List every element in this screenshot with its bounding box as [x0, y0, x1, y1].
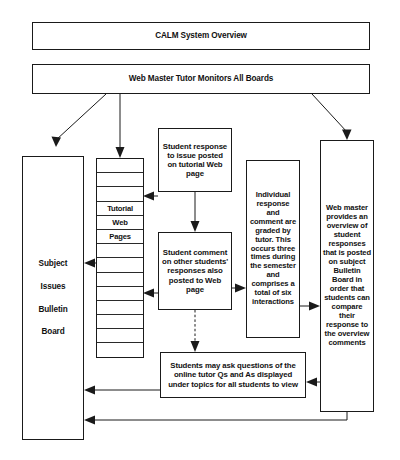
graded-by-tutor-node: Individual response and comment are grad…: [246, 160, 300, 338]
student-comment-label: Student comment on other students' respo…: [162, 248, 228, 294]
subject-board-line-2: Issues: [41, 282, 66, 292]
stack-label-pages: Pages: [97, 230, 143, 244]
graded-by-tutor-label: Individual response and comment are grad…: [249, 191, 297, 307]
calm-system-overview-label: CALM System Overview: [155, 31, 247, 41]
connector-response-to-stack: [143, 192, 158, 201]
stack-stripe: [97, 329, 143, 343]
online-tutor-questions-label: Students may ask questions of the online…: [165, 361, 301, 389]
stack-stripe: [97, 187, 143, 201]
connector-comment-to-graded: [232, 284, 246, 293]
student-response-label: Student response to issue posted on tuto…: [162, 142, 228, 179]
connector-stack-to-subject: [84, 259, 96, 268]
student-response-node: Student response to issue posted on tuto…: [158, 128, 232, 192]
web-master-overview-label: Web master provides an overview of stude…: [323, 204, 371, 347]
stack-label-web: Web: [97, 216, 143, 230]
stack-stripe: [97, 287, 143, 301]
connector-overview-to-questions: [306, 378, 320, 387]
stack-stripe: [97, 301, 143, 315]
connector-comment-to-questions: [191, 310, 200, 352]
connector-overview-to-subject: [84, 412, 347, 425]
calm-system-overview-diagram: CALM System Overview Web Master Tutor Mo…: [0, 0, 400, 460]
calm-system-overview-banner: CALM System Overview: [32, 22, 370, 50]
connector-comment-to-stack: [143, 289, 158, 298]
connector-graded-to-overview: [300, 302, 320, 311]
student-comment-node: Student comment on other students' respo…: [158, 232, 232, 310]
subject-board-line-1: Subject: [39, 259, 68, 269]
tutorial-web-pages-stack: Tutorial Web Pages: [96, 158, 144, 358]
subject-board-line-4: Board: [41, 327, 64, 337]
stack-stripe: [97, 315, 143, 329]
stack-stripe: [97, 343, 143, 357]
connector-questions-to-subject: [84, 386, 160, 395]
online-tutor-questions-node: Students may ask questions of the online…: [160, 352, 306, 398]
stack-stripe: [97, 244, 143, 258]
connector-webmaster-to-subject: [52, 94, 107, 147]
stack-stripe: [97, 273, 143, 287]
stack-label-tutorial: Tutorial: [97, 202, 143, 216]
connector-response-to-comment: [191, 192, 200, 232]
stack-stripe: [97, 173, 143, 187]
subject-board-line-3: Bulletin: [38, 305, 67, 315]
stack-stripe: [97, 258, 143, 272]
connector-webmaster-to-stack: [116, 94, 125, 158]
stack-stripe: [97, 159, 143, 173]
subject-issues-bulletin-board-node: Subject Issues Bulletin Board: [22, 156, 84, 440]
web-master-overview-node: Web master provides an overview of stude…: [320, 140, 374, 412]
web-master-tutor-label: Web Master Tutor Monitors All Boards: [129, 74, 274, 84]
connector-webmaster-to-overview: [312, 94, 352, 140]
web-master-tutor-banner: Web Master Tutor Monitors All Boards: [32, 64, 370, 94]
